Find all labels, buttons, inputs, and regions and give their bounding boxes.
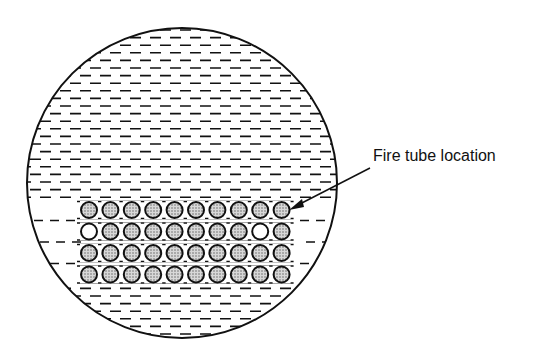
fire-tube bbox=[252, 267, 268, 283]
fire-tube bbox=[188, 267, 204, 283]
annotation-arrow bbox=[289, 168, 370, 210]
fire-tube bbox=[167, 224, 183, 240]
fire-tube bbox=[167, 202, 183, 218]
fire-tube bbox=[209, 267, 225, 283]
fire-tube bbox=[102, 202, 118, 218]
boiler-cross-section-diagram: Fire tube location bbox=[0, 0, 537, 361]
fire-tube bbox=[252, 245, 268, 261]
fire-tube bbox=[167, 245, 183, 261]
fire-tube bbox=[167, 267, 183, 283]
fire-tube bbox=[231, 202, 247, 218]
fire-tube bbox=[188, 202, 204, 218]
fire-tube bbox=[274, 202, 290, 218]
empty-tube bbox=[252, 224, 268, 240]
fire-tube bbox=[188, 245, 204, 261]
empty-tube bbox=[81, 224, 97, 240]
fire-tube bbox=[81, 267, 97, 283]
fire-tube bbox=[102, 267, 118, 283]
fire-tube bbox=[231, 267, 247, 283]
fire-tube bbox=[124, 245, 140, 261]
fire-tube bbox=[124, 267, 140, 283]
fire-tube bbox=[209, 202, 225, 218]
fire-tube bbox=[102, 224, 118, 240]
fire-tube bbox=[145, 202, 161, 218]
fire-tube bbox=[209, 245, 225, 261]
fire-tube bbox=[124, 224, 140, 240]
fire-tube bbox=[145, 224, 161, 240]
fire-tube bbox=[274, 267, 290, 283]
fire-tube-bank bbox=[77, 201, 294, 284]
fire-tube bbox=[231, 224, 247, 240]
fire-tube bbox=[145, 267, 161, 283]
fire-tube bbox=[231, 245, 247, 261]
boiler-shell-outline bbox=[27, 28, 337, 338]
fire-tube bbox=[81, 245, 97, 261]
fire-tube bbox=[124, 202, 140, 218]
fire-tube bbox=[102, 245, 118, 261]
fire-tube bbox=[252, 202, 268, 218]
fire-tube-location-label: Fire tube location bbox=[373, 147, 496, 164]
fire-tube bbox=[188, 224, 204, 240]
fire-tube bbox=[274, 224, 290, 240]
fire-tube bbox=[81, 202, 97, 218]
fire-tube bbox=[274, 245, 290, 261]
fire-tube bbox=[209, 224, 225, 240]
fire-tube bbox=[145, 245, 161, 261]
